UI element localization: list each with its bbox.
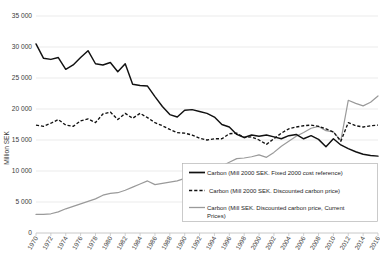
legend-label-fixed-cost-reference: Carbon (Mill 2000 SEK. Fixed 2000 cost r…	[207, 170, 343, 176]
x-axis-tick-label: 1986	[145, 235, 158, 251]
x-axis-tick-label: 1990	[175, 235, 188, 251]
y-axis-title-text: Million SEK	[3, 131, 10, 165]
x-axis-tick-label: 2004	[279, 235, 292, 251]
x-axis-tick-label: 1978	[85, 235, 98, 251]
y-axis-ticks: 05 00010 00015 00020 00025 00030 00035 0…	[12, 12, 33, 236]
x-axis-tick-label: 2000	[249, 235, 262, 251]
x-axis-tick-label: 1988	[160, 235, 173, 251]
x-axis-tick-label: 2012	[338, 235, 351, 251]
legend: Carbon (Mill 2000 SEK. Fixed 2000 cost r…	[183, 164, 378, 222]
x-axis-tick-label: 2006	[294, 235, 307, 251]
x-axis-tickmarks	[36, 233, 378, 236]
line-chart: 05 00010 00015 00020 00025 00030 00035 0…	[0, 0, 380, 263]
y-axis-tick-label: 15 000	[12, 136, 33, 143]
y-axis-tick-label: 35 000	[12, 12, 33, 19]
x-axis-tick-label: 1972	[41, 235, 54, 251]
x-axis-tick-label: 1974	[56, 235, 69, 251]
x-axis-tick-label: 2010	[323, 235, 336, 251]
series-line-fixed-cost-reference	[36, 44, 378, 156]
y-axis-tick-label: 5 000	[15, 198, 32, 205]
x-axis-tick-label: 1984	[130, 235, 143, 251]
legend-label-current-prices-line2: Prices)	[207, 213, 226, 219]
x-axis-tick-label: 2016	[368, 235, 380, 251]
y-axis-title: Million SEK	[3, 131, 10, 165]
legend-label-current-prices-line1: Carbon (Mill SEK. Discounted carbon pric…	[207, 205, 345, 211]
x-axis-labels: 1970197219741976197819801982198419861988…	[26, 235, 380, 251]
x-axis-tick-label: 1994	[204, 235, 217, 251]
y-axis-tick-label: 30 000	[12, 43, 33, 50]
y-axis-tick-label: 10 000	[12, 167, 33, 174]
x-axis-tick-label: 1982	[115, 235, 128, 251]
series-line-discounted-carbon-price	[36, 112, 378, 144]
legend-label-discounted-carbon-price: Carbon (Mill 2000 SEK. Discounted carbon…	[209, 188, 340, 194]
x-axis-tick-label: 1970	[26, 235, 39, 251]
x-axis-tick-label: 1980	[100, 235, 113, 251]
x-axis-tick-label: 1976	[71, 235, 84, 251]
y-axis-tick-label: 25 000	[12, 74, 33, 81]
x-axis-tick-label: 2002	[264, 235, 277, 251]
x-axis-tick-label: 1992	[189, 235, 202, 251]
x-axis-tick-label: 2014	[353, 235, 366, 251]
chart-container: 05 00010 00015 00020 00025 00030 00035 0…	[0, 0, 380, 263]
x-axis-tick-label: 2008	[308, 235, 321, 251]
x-axis-tick-label: 1996	[219, 235, 232, 251]
y-axis-tick-label: 20 000	[12, 105, 33, 112]
x-axis-tick-label: 1998	[234, 235, 247, 251]
